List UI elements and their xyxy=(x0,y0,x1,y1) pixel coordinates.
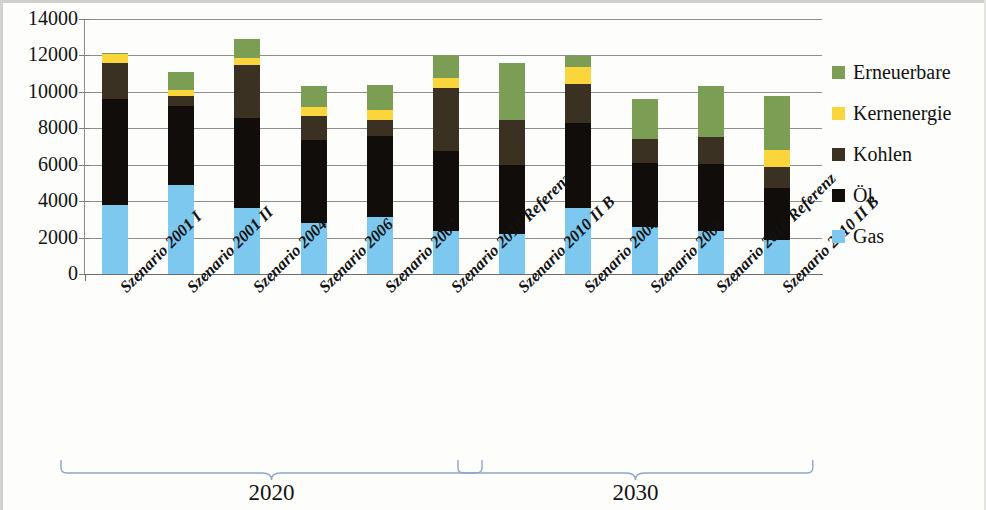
bar-segment-kohlen xyxy=(367,120,393,136)
x-axis-tick-mark xyxy=(141,274,142,281)
legend-swatch-icon xyxy=(832,230,845,243)
bar-segment-öl xyxy=(632,163,658,227)
group-brace xyxy=(60,458,483,482)
bar-column xyxy=(301,85,327,274)
bar-segment-erneuerbare xyxy=(234,39,260,58)
bar-column xyxy=(367,85,393,274)
y-axis-tick-label: 8000 xyxy=(38,117,78,137)
bar-segment-öl xyxy=(301,140,327,223)
legend-item: Kernenergie xyxy=(832,93,982,134)
legend-item: Gas xyxy=(832,216,982,257)
bar-segment-gas xyxy=(102,205,128,274)
bar-column xyxy=(764,96,790,275)
scan-border-top xyxy=(0,0,986,3)
bar-segment-öl xyxy=(433,151,459,231)
x-axis-line xyxy=(84,274,823,275)
bar-segment-kohlen xyxy=(168,96,194,105)
bar-column xyxy=(433,55,459,274)
bar-column xyxy=(168,72,194,274)
x-axis-tick-mark xyxy=(538,274,539,281)
brace-path-icon xyxy=(60,458,483,482)
x-axis-tick-mark xyxy=(406,274,407,281)
legend-swatch-icon xyxy=(832,148,845,161)
bar-segment-öl xyxy=(764,188,790,241)
bar-segment-erneuerbare xyxy=(632,99,658,139)
bar-segment-kohlen xyxy=(301,116,327,140)
bar-segment-kohlen xyxy=(698,137,724,164)
bar-segment-gas xyxy=(764,240,790,274)
bar-segment-gas xyxy=(499,234,525,274)
bar-segment-kohlen xyxy=(565,84,591,123)
bar-segment-öl xyxy=(565,123,591,209)
bar-segment-öl xyxy=(168,106,194,185)
legend-item: Kohlen xyxy=(832,134,982,175)
bar-segment-gas xyxy=(698,231,724,274)
chart-legend: ErneuerbareKernenergieKohlenÖlGas xyxy=(832,52,982,257)
bar-column xyxy=(234,39,260,274)
legend-label: Kernenergie xyxy=(853,102,951,125)
bar-segment-gas xyxy=(433,231,459,274)
x-axis-tick-mark xyxy=(274,274,275,281)
bar-segment-kohlen xyxy=(499,120,525,165)
bar-segment-kohlen xyxy=(102,63,128,99)
x-axis-tick-mark xyxy=(605,274,606,281)
legend-swatch-icon xyxy=(832,66,845,79)
legend-swatch-icon xyxy=(832,107,845,120)
x-axis-tick-mark xyxy=(340,274,341,281)
bar-segment-erneuerbare xyxy=(698,86,724,136)
x-axis-tick-mark xyxy=(85,274,86,281)
bar-segment-erneuerbare xyxy=(301,86,327,108)
y-axis-tick-label: 10000 xyxy=(28,81,78,101)
bar-segment-öl xyxy=(234,118,260,208)
y-axis-tick-label: 2000 xyxy=(38,227,78,247)
bar-segment-kernenergie xyxy=(102,54,128,63)
bar-segment-kohlen xyxy=(632,139,658,163)
x-axis-tick-mark xyxy=(472,274,473,281)
bar-column xyxy=(632,99,658,274)
bar-segment-gas xyxy=(632,227,658,274)
legend-item: Öl xyxy=(832,175,982,216)
brace-path-icon xyxy=(457,458,814,482)
bar-segment-öl xyxy=(499,165,525,234)
bar-segment-gas xyxy=(234,208,260,274)
bar-segment-kohlen xyxy=(433,88,459,151)
bar-segment-gas xyxy=(301,223,327,274)
y-axis-tick-label: 4000 xyxy=(38,190,78,210)
bar-column xyxy=(499,63,525,274)
legend-swatch-icon xyxy=(832,189,845,202)
legend-label: Gas xyxy=(853,225,884,248)
bar-segment-kohlen xyxy=(234,65,260,119)
x-axis-tick-mark xyxy=(207,274,208,281)
bar-segment-kernenergie xyxy=(565,67,591,83)
bar-segment-erneuerbare xyxy=(433,55,459,79)
bar-segment-erneuerbare xyxy=(565,56,591,67)
bar-column xyxy=(698,86,724,274)
y-axis-tick-label: 6000 xyxy=(38,154,78,174)
bar-segment-kernenergie xyxy=(367,110,393,120)
bar-segment-öl xyxy=(102,99,128,205)
bar-segment-kernenergie xyxy=(301,107,327,116)
y-axis-tick-label: 0 xyxy=(68,263,78,283)
plot-area xyxy=(85,19,822,274)
group-brace xyxy=(457,458,814,482)
legend-item: Erneuerbare xyxy=(832,52,982,93)
legend-label: Öl xyxy=(853,184,873,207)
x-axis-tick-mark xyxy=(803,274,804,281)
group-label: 2020 xyxy=(60,480,483,506)
x-axis-tick-mark xyxy=(737,274,738,281)
legend-label: Erneuerbare xyxy=(853,61,951,84)
chart-root: 02000400060008000100001200014000 Szenari… xyxy=(0,0,986,510)
y-axis-tick-label: 14000 xyxy=(28,8,78,28)
bar-column xyxy=(565,56,591,274)
bar-segment-erneuerbare xyxy=(168,72,194,90)
bar-segment-gas xyxy=(367,217,393,274)
bar-segment-erneuerbare xyxy=(499,63,525,120)
bar-segment-gas xyxy=(565,208,591,274)
legend-label: Kohlen xyxy=(853,143,912,166)
bar-segment-erneuerbare xyxy=(764,96,790,151)
bar-column xyxy=(102,53,128,274)
x-axis-tick-mark xyxy=(671,274,672,281)
bar-segment-kohlen xyxy=(764,167,790,188)
bar-segment-erneuerbare xyxy=(367,85,393,111)
y-axis-tick-label: 12000 xyxy=(28,44,78,64)
